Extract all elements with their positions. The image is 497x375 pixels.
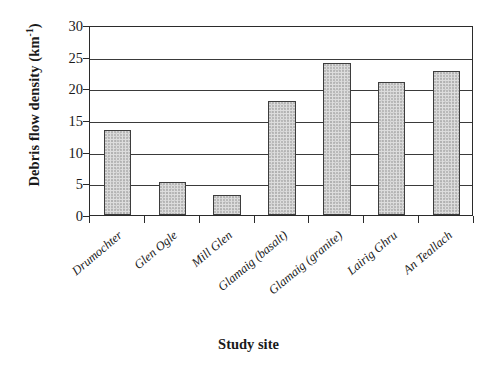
y-tick-mark-30 (83, 26, 90, 27)
bar-mill-glen (213, 195, 240, 215)
x-tick-mark-5 (363, 216, 364, 223)
y-axis-title-wrapper: Debris flow density (km-1) (0, 0, 44, 225)
x-tick-mark-1 (144, 216, 145, 223)
y-axis-title: Debris flow density (km-1) (25, 5, 43, 205)
plot-area (89, 26, 473, 216)
y-tick-label-25: 25 (55, 51, 83, 66)
y-axis-title-text: Debris flow density (km (26, 36, 42, 186)
chart-figure: Debris flow density (km-1) 051015202530 … (0, 0, 497, 375)
y-axis-title-exponent: -1 (25, 28, 35, 36)
bar-glamaig-basalt (268, 101, 295, 215)
y-tick-mark-10 (83, 153, 90, 154)
x-category-label-lairig-ghru: Lairig Ghru (299, 228, 401, 317)
y-tick-mark-15 (83, 121, 90, 122)
bar-glamaig-granite (323, 63, 350, 215)
bar-glen-ogle (159, 182, 186, 215)
x-tick-mark-7 (473, 216, 474, 223)
y-tick-label-5: 5 (55, 177, 83, 192)
gridline-25 (90, 59, 472, 60)
x-category-label-an-teallach: An Teallach (354, 228, 456, 317)
bar-an-teallach (433, 71, 460, 215)
y-tick-mark-5 (83, 184, 90, 185)
y-tick-label-30: 30 (55, 19, 83, 34)
x-axis-title: Study site (0, 336, 497, 353)
x-tick-mark-6 (418, 216, 419, 223)
x-category-label-glen-ogle: Glen Ogle (79, 228, 181, 317)
x-tick-mark-2 (199, 216, 200, 223)
bar-drumochter (104, 130, 131, 215)
y-tick-label-10: 10 (55, 146, 83, 161)
x-category-label-glamaig-granite: Glamaig (granite) (244, 228, 346, 317)
x-tick-mark-0 (89, 216, 90, 223)
x-category-label-glamaig-basalt: Glamaig (basalt) (189, 228, 291, 317)
x-tick-mark-3 (254, 216, 255, 223)
y-axis-tick-labels: 051015202530 (53, 26, 83, 216)
x-category-label-mill-glen: Mill Glen (134, 228, 236, 317)
bar-lairig-ghru (378, 82, 405, 215)
y-tick-label-15: 15 (55, 114, 83, 129)
y-axis-title-tail: ) (26, 23, 42, 28)
x-category-label-drumochter: Drumochter (25, 228, 127, 317)
gridline-20 (90, 90, 472, 91)
y-tick-label-20: 20 (55, 82, 83, 97)
y-tick-mark-25 (83, 58, 90, 59)
y-tick-label-0: 0 (55, 209, 83, 224)
y-tick-mark-20 (83, 89, 90, 90)
x-tick-mark-4 (308, 216, 309, 223)
